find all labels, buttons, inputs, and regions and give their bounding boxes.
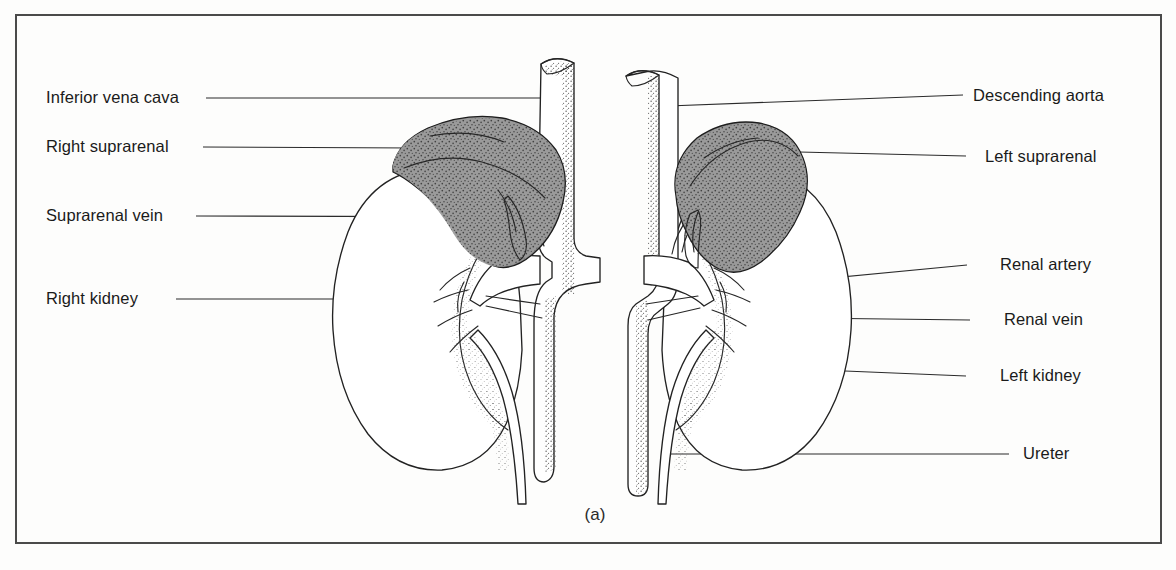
leader-left-suprarenal — [799, 152, 966, 156]
leader-left-kidney — [845, 371, 966, 376]
label-descending-aorta: Descending aorta — [973, 86, 1105, 104]
label-renal-artery: Renal artery — [1000, 255, 1092, 273]
figure-caption: (a) — [585, 505, 606, 524]
left-labels-group: Inferior vena cava Right suprarenal Supr… — [46, 88, 180, 307]
leader-right-suprarenal — [203, 147, 415, 148]
anatomy-diagram-svg: Inferior vena cava Right suprarenal Supr… — [0, 0, 1176, 570]
label-ureter: Ureter — [1023, 444, 1070, 462]
label-suprarenal-vein: Suprarenal vein — [46, 206, 163, 224]
right-labels-group: Descending aorta Left suprarenal Renal a… — [973, 86, 1105, 462]
label-left-suprarenal: Left suprarenal — [985, 147, 1097, 165]
inferior-vena-cava-vessel — [534, 59, 600, 482]
label-right-kidney: Right kidney — [46, 289, 139, 307]
figure-root: Inferior vena cava Right suprarenal Supr… — [0, 0, 1176, 570]
label-inferior-vena-cava: Inferior vena cava — [46, 88, 180, 106]
label-left-kidney: Left kidney — [1000, 366, 1082, 384]
leader-descending-aorta — [668, 95, 963, 106]
label-right-suprarenal: Right suprarenal — [46, 137, 169, 155]
label-renal-vein: Renal vein — [1004, 310, 1083, 328]
